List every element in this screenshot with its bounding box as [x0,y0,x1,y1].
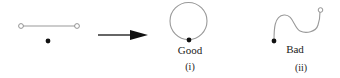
bad-dot-icon [272,39,277,44]
target-dot-icon [46,39,51,44]
wiggly-curve [274,12,320,41]
diagram-graphics [0,0,340,78]
good-sublabel: (i) [185,62,194,72]
good-panel [170,3,207,43]
closed-loop-curve [170,3,207,40]
transition-arrow-icon [98,30,148,40]
good-dot-icon [187,38,192,43]
open-endpoint-left-icon [19,24,24,29]
good-label: Good [178,45,202,56]
open-endpoint-right-icon [75,24,80,29]
open-endpoint-icon [318,8,323,13]
bad-panel [272,8,323,44]
initial-panel [19,24,80,44]
bad-sublabel: (ii) [295,63,307,73]
bad-label: Bad [286,44,304,55]
diagram-canvas: Good (i) Bad (ii) [0,0,340,78]
